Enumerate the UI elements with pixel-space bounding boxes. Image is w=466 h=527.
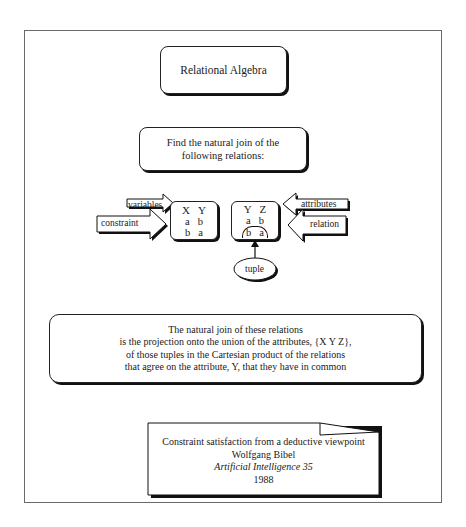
attr-x: X <box>182 205 190 216</box>
attributes-label: attributes <box>301 199 336 209</box>
definition-line-3: of those tuples in the Cartesian product… <box>126 349 345 362</box>
cell: a <box>259 227 264 238</box>
cell: b <box>246 227 251 238</box>
cell: a <box>246 215 251 226</box>
tuple-pointer-icon <box>251 240 259 259</box>
citation-journal: Artificial Intelligence 35 <box>148 461 379 474</box>
citation-author: Wolfgang Bibel <box>148 449 379 462</box>
relation-label: relation <box>310 219 339 229</box>
relation-yz-tuple: a b <box>246 215 264 226</box>
variables-label: variables <box>128 200 162 210</box>
relation-xy-tuple: a b <box>185 216 203 227</box>
constraint-label: constraint <box>101 218 138 228</box>
citation: Constraint satisfaction from a deductive… <box>148 423 379 495</box>
relation-xy-header: X Y <box>182 205 206 216</box>
relation-xy-tuple: b a <box>185 227 203 238</box>
relation-xy: X Y a b b a <box>170 201 218 240</box>
citation-year: 1988 <box>148 474 379 487</box>
definition-line-2: is the projection onto the union of the … <box>120 336 352 349</box>
relation-yz: Y Z a b b a <box>231 201 279 240</box>
cell: b <box>259 215 264 226</box>
definition-line-1: The natural join of these relations <box>168 324 303 337</box>
attr-z: Z <box>260 204 267 215</box>
definition-box: The natural join of these relations is t… <box>49 314 422 383</box>
cell: b <box>198 216 203 227</box>
attr-y: Y <box>198 205 206 216</box>
relation-yz-header: Y Z <box>244 204 267 215</box>
attr-y: Y <box>244 204 252 215</box>
cell: b <box>185 227 190 238</box>
cell: a <box>198 227 203 238</box>
tuple-label: tuple <box>245 264 264 274</box>
definition-line-4: that agree on the attribute, Y, that the… <box>125 361 347 374</box>
citation-title: Constraint satisfaction from a deductive… <box>148 436 379 449</box>
cell: a <box>185 216 190 227</box>
relation-yz-tuple-highlighted: b a <box>242 226 268 238</box>
